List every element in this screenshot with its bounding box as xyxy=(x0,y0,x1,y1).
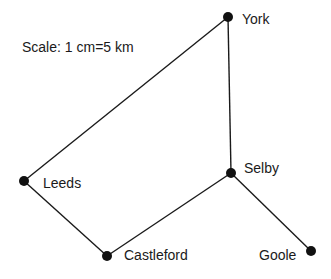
edge-selby-goole xyxy=(231,173,311,251)
edge-leeds-castleford xyxy=(24,181,107,256)
edge-york-selby xyxy=(228,17,231,173)
label-castleford: Castleford xyxy=(124,248,188,262)
node-york xyxy=(223,12,233,22)
label-goole: Goole xyxy=(259,248,296,262)
label-selby: Selby xyxy=(244,161,279,175)
scale-label: Scale: 1 cm=5 km xyxy=(22,40,134,54)
label-leeds: Leeds xyxy=(43,176,81,190)
node-leeds xyxy=(19,176,29,186)
edge-castleford-selby xyxy=(107,173,231,256)
node-castleford xyxy=(102,251,112,261)
label-york: York xyxy=(242,12,270,26)
node-selby xyxy=(226,168,236,178)
node-goole xyxy=(306,246,316,256)
